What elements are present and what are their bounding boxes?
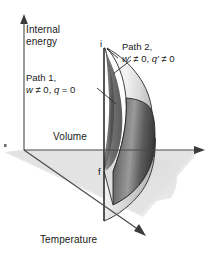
path2-annotation: Path 2, w′ ≠ 0, q′ ≠ 0	[122, 41, 175, 64]
internal-energy-axis-label: Internal energy	[26, 24, 60, 47]
volume-arrowhead	[194, 146, 205, 154]
point-label-f: f	[98, 167, 101, 177]
path2-w-value: ≠ 0,	[131, 53, 152, 64]
volume-axis-label: Volume	[53, 131, 87, 143]
point-label-i: i	[100, 39, 102, 49]
path2-q-symbol: q′	[152, 53, 159, 64]
path1-q-value: = 0	[59, 84, 75, 95]
path2-title: Path 2,	[122, 41, 152, 52]
thermodynamic-paths-figure: Internal energy Volume Temperature Path …	[0, 0, 216, 261]
path1-w-symbol: w	[26, 84, 33, 95]
temperature-axis-label: Temperature	[40, 234, 97, 246]
internal-energy-label-line2: energy	[26, 36, 60, 48]
path1-title: Path 1,	[26, 72, 56, 83]
path2-w-symbol: w′	[122, 53, 131, 64]
path2-q-value: ≠ 0	[159, 53, 175, 64]
path1-expression: w ≠ 0, q = 0	[26, 84, 75, 96]
path2-expression: w′ ≠ 0, q′ ≠ 0	[122, 53, 175, 65]
internal-energy-label-line1: Internal	[26, 24, 60, 35]
temperature-arrowhead	[134, 224, 146, 236]
stray-mark	[4, 144, 7, 147]
path1-w-value: ≠ 0,	[33, 84, 54, 95]
path1-annotation: Path 1, w ≠ 0, q = 0	[26, 72, 75, 95]
internal-energy-arrowhead	[20, 14, 28, 24]
